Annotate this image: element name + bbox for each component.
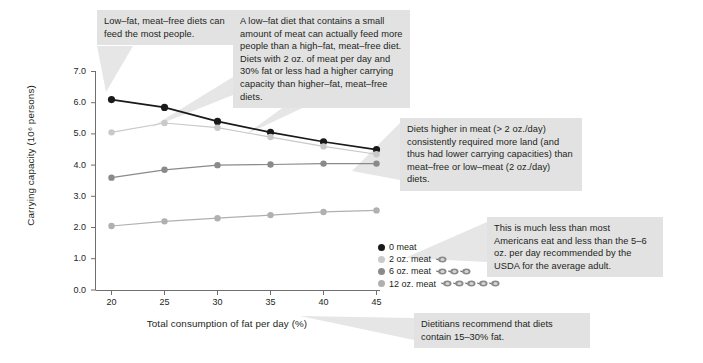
callout-usda-recommendation: This is much less than most Americans ea… <box>487 217 663 277</box>
data-point <box>161 167 167 173</box>
legend-label: 12 oz. meat <box>389 279 436 289</box>
callout-dietitians-fat: Dietitians recommend that diets contain … <box>414 313 590 348</box>
meat-icon <box>460 268 471 275</box>
x-tick-label: 20 <box>100 297 124 307</box>
x-tick-label: 40 <box>312 297 336 307</box>
legend-item-12oz-meat[interactable]: 12 oz. meat <box>378 278 508 290</box>
data-point <box>214 124 220 130</box>
data-point <box>320 160 326 166</box>
y-axis-title: Carrying capacity (10⁶ persons) <box>25 66 36 246</box>
data-point <box>108 129 114 135</box>
legend-label: 0 meat <box>389 242 417 252</box>
callout-low-fat-meat-free: Low–fat, meat–free diets can feed the mo… <box>97 10 237 45</box>
x-tick-label: 35 <box>259 297 283 307</box>
legend-swatch-icon <box>378 268 385 275</box>
data-point <box>320 209 326 215</box>
series-line <box>112 210 377 226</box>
callout-small-amount-meat: A low–fat diet that contains a small amo… <box>233 10 410 108</box>
series-3 <box>108 207 379 229</box>
y-tick-label: 3.0 <box>60 191 86 201</box>
data-point <box>214 215 220 221</box>
data-point <box>108 96 115 103</box>
data-point <box>267 161 273 167</box>
data-point <box>373 207 379 213</box>
meat-icon <box>465 280 476 287</box>
meat-icon <box>477 280 488 287</box>
y-tick-label: 0.0 <box>60 285 86 295</box>
y-axis-ticks <box>91 72 96 291</box>
data-point <box>267 134 273 140</box>
legend-label: 6 oz. meat <box>389 266 431 276</box>
data-point <box>161 104 168 111</box>
legend-swatch-icon <box>378 280 385 287</box>
meat-icon <box>453 280 464 287</box>
legend-swatch-icon <box>378 244 385 251</box>
y-tick-label: 6.0 <box>60 97 86 107</box>
x-axis-title: Total consumption of fat per day (%) <box>92 318 362 329</box>
data-point <box>373 160 379 166</box>
data-point <box>161 218 167 224</box>
y-tick-label: 1.0 <box>60 253 86 263</box>
series-line <box>112 164 377 178</box>
legend-label: 2 oz. meat <box>389 254 431 264</box>
x-tick-label: 30 <box>206 297 230 307</box>
data-point <box>320 143 326 149</box>
callout-higher-meat-more-land: Diets higher in meat (> 2 oz./day) consi… <box>400 118 582 191</box>
series-layer <box>108 96 380 229</box>
legend-swatch-icon <box>378 256 385 263</box>
data-point <box>108 174 114 180</box>
x-tick-label: 25 <box>153 297 177 307</box>
data-point <box>161 120 167 126</box>
series-2 <box>108 160 379 180</box>
carrying-capacity-figure: Carrying capacity (10⁶ persons) Total co… <box>0 0 703 363</box>
legend-meat-icons-1 <box>436 256 447 263</box>
x-tick-label: 45 <box>365 297 389 307</box>
data-point <box>108 223 114 229</box>
data-point <box>267 212 273 218</box>
data-point <box>214 162 220 168</box>
y-tick-label: 4.0 <box>60 160 86 170</box>
data-point <box>373 151 379 157</box>
meat-icon <box>436 256 447 263</box>
meat-icon <box>489 280 500 287</box>
legend-meat-icons-2 <box>436 268 471 275</box>
series-1 <box>108 120 379 158</box>
meat-icon <box>448 268 459 275</box>
meat-icon <box>441 280 452 287</box>
y-tick-label: 7.0 <box>60 66 86 76</box>
y-tick-label: 2.0 <box>60 222 86 232</box>
y-tick-label: 5.0 <box>60 128 86 138</box>
meat-icon <box>436 268 447 275</box>
data-point <box>214 118 221 125</box>
legend-meat-icons-3 <box>441 280 500 287</box>
x-axis-ticks <box>112 291 377 296</box>
